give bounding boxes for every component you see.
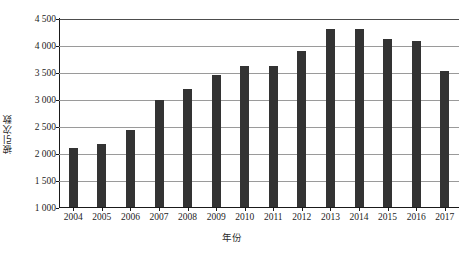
x-tick-mark: [245, 208, 246, 211]
x-tick-mark: [416, 208, 417, 211]
x-tick-mark: [273, 208, 274, 211]
y-tick-mark: [56, 100, 59, 101]
bar: [212, 75, 221, 207]
x-tick-mark: [188, 208, 189, 211]
y-tick-mark: [56, 127, 59, 128]
y-axis-title: 被引次数: [0, 96, 14, 172]
bar: [126, 130, 135, 207]
x-axis-title: 年份: [0, 230, 463, 244]
gridline: [59, 154, 459, 155]
bar: [155, 100, 164, 207]
bar: [183, 89, 192, 207]
x-tick-mark: [102, 208, 103, 211]
bar-chart-figure: 被引次数 1 0001 5002 0002 5003 0003 5004 000…: [0, 0, 463, 254]
bar: [412, 41, 421, 207]
y-tick-label: 2 000: [14, 149, 56, 159]
x-tick-mark: [159, 208, 160, 211]
y-tick-label: 3 000: [14, 95, 56, 105]
y-axis-tick-labels: 1 0001 5002 0002 5003 0003 5004 0004 500: [14, 0, 56, 254]
y-tick-label: 1 000: [14, 203, 56, 213]
x-tick-mark: [216, 208, 217, 211]
y-tick-label: 4 000: [14, 41, 56, 51]
y-tick-label: 4 500: [14, 14, 56, 24]
bar: [69, 148, 78, 207]
bar: [297, 51, 306, 207]
x-tick-mark: [73, 208, 74, 211]
y-tick-label: 2 500: [14, 122, 56, 132]
x-tick-mark: [330, 208, 331, 211]
x-tick-mark: [388, 208, 389, 211]
bar: [97, 144, 106, 207]
x-tick-mark: [302, 208, 303, 211]
y-tick-mark: [56, 46, 59, 47]
gridline: [59, 19, 459, 20]
gridline: [59, 127, 459, 128]
gridline: [59, 181, 459, 182]
x-tick-mark: [359, 208, 360, 211]
x-axis-tick-labels: 2004200520062007200820092010201120122013…: [59, 212, 459, 226]
y-tick-mark: [56, 154, 59, 155]
bar: [269, 66, 278, 207]
x-tick-mark: [130, 208, 131, 211]
y-tick-mark: [56, 19, 59, 20]
gridline: [59, 46, 459, 47]
y-tick-mark: [56, 208, 59, 209]
plot-area: [59, 18, 459, 208]
bar: [240, 66, 249, 207]
y-tick-label: 1 500: [14, 176, 56, 186]
bar: [355, 29, 364, 207]
x-tick-label: 2017: [428, 212, 462, 222]
gridline: [59, 100, 459, 101]
y-tick-mark: [56, 181, 59, 182]
x-tick-mark: [445, 208, 446, 211]
bar: [326, 29, 335, 207]
x-axis-line: [59, 207, 459, 208]
y-tick-mark: [56, 73, 59, 74]
bar: [383, 39, 392, 207]
y-tick-label: 3 500: [14, 68, 56, 78]
bar: [440, 71, 449, 207]
gridline: [59, 73, 459, 74]
